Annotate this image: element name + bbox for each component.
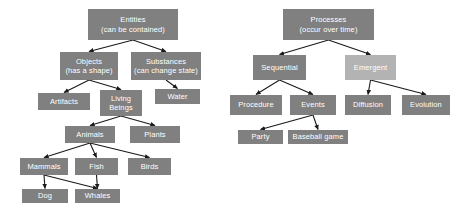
node-events[interactable]: Events [290, 95, 336, 115]
edge-animals-to-fish [90, 143, 97, 158]
node-substances[interactable]: Substances (can change state) [131, 52, 201, 80]
taxonomy-diagram: Entities (can be contained)Objects (has … [0, 0, 457, 213]
edge-mammals-to-dog [44, 175, 45, 189]
edge-processes-to-emergent [329, 40, 371, 55]
node-sequential[interactable]: Sequential [253, 55, 306, 80]
edge-entities-to-substances [133, 40, 166, 52]
edge-sequential-to-procedure [256, 80, 280, 95]
node-birds[interactable]: Birds [128, 158, 171, 175]
node-objects[interactable]: Objects (has a shape) [60, 52, 118, 80]
edge-substances-to-water [166, 80, 178, 89]
node-evolution[interactable]: Evolution [402, 95, 450, 115]
node-living-beings[interactable]: Living Beings [100, 90, 142, 116]
edge-living-beings-to-plants [121, 116, 155, 126]
node-artifacts[interactable]: Artifacts [38, 93, 90, 110]
node-animals[interactable]: Animals [65, 126, 115, 143]
node-whales[interactable]: Whales [75, 189, 120, 203]
edge-animals-to-birds [90, 143, 150, 158]
node-mammals[interactable]: Mammals [20, 158, 68, 175]
edge-objects-to-living-beings [89, 80, 121, 90]
node-diffusion[interactable]: Diffusion [345, 95, 391, 115]
node-entities[interactable]: Entities (can be contained) [88, 9, 178, 40]
edge-objects-to-artifacts [64, 80, 89, 93]
edge-sequential-to-events [280, 80, 314, 95]
edge-animals-to-mammals [44, 143, 90, 158]
node-processes[interactable]: Processes (occur over time) [283, 9, 374, 40]
edge-fish-to-whales [97, 175, 98, 189]
node-dog[interactable]: Dog [22, 189, 68, 203]
node-party[interactable]: Party [238, 130, 283, 144]
edge-mammals-to-whales [44, 175, 98, 189]
node-emergent[interactable]: Emergent [345, 55, 396, 80]
node-plants[interactable]: Plants [130, 126, 180, 143]
edge-emergent-to-evolution [371, 80, 427, 95]
node-water[interactable]: Water [155, 89, 200, 104]
node-procedure[interactable]: Procedure [230, 95, 282, 115]
node-fish[interactable]: Fish [75, 158, 118, 175]
node-baseball-game[interactable]: Baseball game [288, 130, 348, 144]
edge-events-to-party [261, 115, 314, 130]
edge-processes-to-sequential [280, 40, 329, 55]
edge-entities-to-objects [89, 40, 133, 52]
edge-emergent-to-diffusion [368, 80, 371, 95]
edge-events-to-baseball-game [313, 115, 318, 130]
edge-living-beings-to-animals [90, 116, 121, 126]
